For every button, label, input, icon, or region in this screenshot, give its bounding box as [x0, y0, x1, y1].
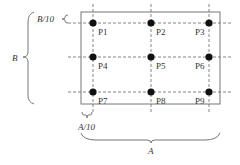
sampling-grid-diagram: P1P2P3P4P5P6P7P8P9 B B/10 A/10 A [0, 0, 240, 165]
sample-point-p5 [147, 53, 154, 60]
height-label: B [12, 53, 18, 63]
point-label: P3 [195, 27, 205, 37]
sample-point-p2 [147, 19, 154, 26]
sample-point-p8 [147, 88, 154, 95]
width-brace [81, 133, 220, 143]
sample-point-p7 [89, 88, 96, 95]
sample-point-p9 [205, 88, 212, 95]
point-label: P6 [195, 61, 205, 71]
height-brace [23, 12, 34, 104]
sample-point-p3 [205, 19, 212, 26]
point-label: P4 [98, 61, 108, 71]
point-label: P1 [98, 27, 108, 37]
point-label: P7 [98, 96, 108, 106]
point-label: P2 [156, 27, 166, 37]
point-label: P5 [156, 61, 166, 71]
sample-point-p6 [205, 53, 212, 60]
sample-point-p4 [89, 53, 96, 60]
sample-point-p1 [89, 19, 96, 26]
width-label: A [147, 146, 154, 156]
point-label: P9 [195, 96, 205, 106]
height-margin-label: B/10 [37, 14, 54, 24]
width-margin-brace [82, 112, 92, 118]
width-margin-label: A/10 [77, 122, 95, 132]
point-label: P8 [156, 96, 166, 106]
height-margin-brace [62, 15, 68, 23]
